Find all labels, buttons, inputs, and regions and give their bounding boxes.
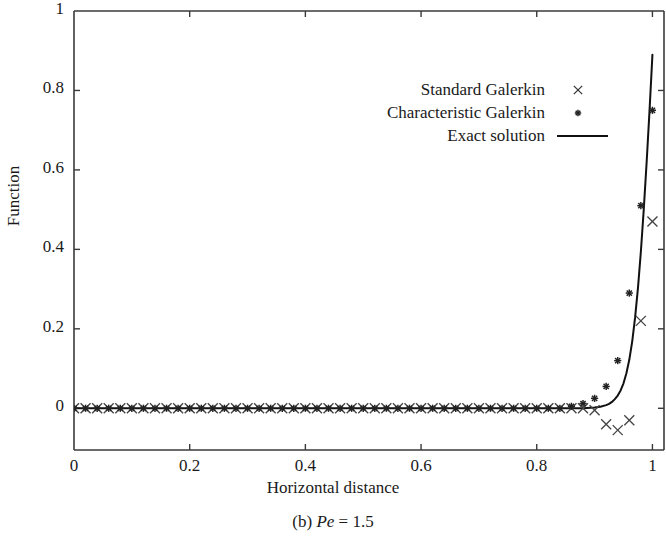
x-tick-label-group: 00.20.40.60.81 (0, 0, 666, 543)
x-tick-label: 0 (70, 456, 79, 476)
x-axis-title: Horizontal distance (0, 478, 666, 498)
figure-caption: (b) Pe = 1.5 (0, 512, 666, 532)
caption-symbol: Pe (316, 512, 334, 531)
legend-label-exact-solution: Exact solution (447, 126, 545, 146)
x-tick-label: 0.2 (179, 456, 200, 476)
caption-value: = 1.5 (334, 512, 373, 531)
x-tick-label: 1 (648, 456, 657, 476)
y-axis-title: Function (4, 156, 24, 236)
x-tick-label: 0.8 (526, 456, 547, 476)
figure-container: 00.20.40.60.81 00.20.40.60.81 Function H… (0, 0, 666, 543)
legend-label-characteristic-galerkin: Characteristic Galerkin (387, 103, 545, 123)
legend-label-standard-galerkin: Standard Galerkin (421, 80, 545, 100)
caption-prefix: (b) (292, 512, 316, 531)
x-tick-label: 0.4 (295, 456, 316, 476)
x-tick-label: 0.6 (410, 456, 431, 476)
